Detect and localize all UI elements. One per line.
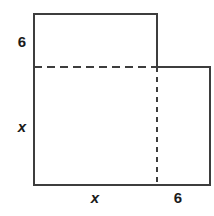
- label-left-side-x: x: [18, 119, 26, 134]
- label-bottom-left-x: x: [91, 190, 99, 205]
- label-bottom-right-six: 6: [174, 190, 182, 205]
- geometry-figure: 6 x x 6: [0, 0, 214, 216]
- figure-canvas: [0, 0, 214, 216]
- label-left-top-six: 6: [18, 34, 26, 49]
- l-shape-outline: [34, 14, 210, 185]
